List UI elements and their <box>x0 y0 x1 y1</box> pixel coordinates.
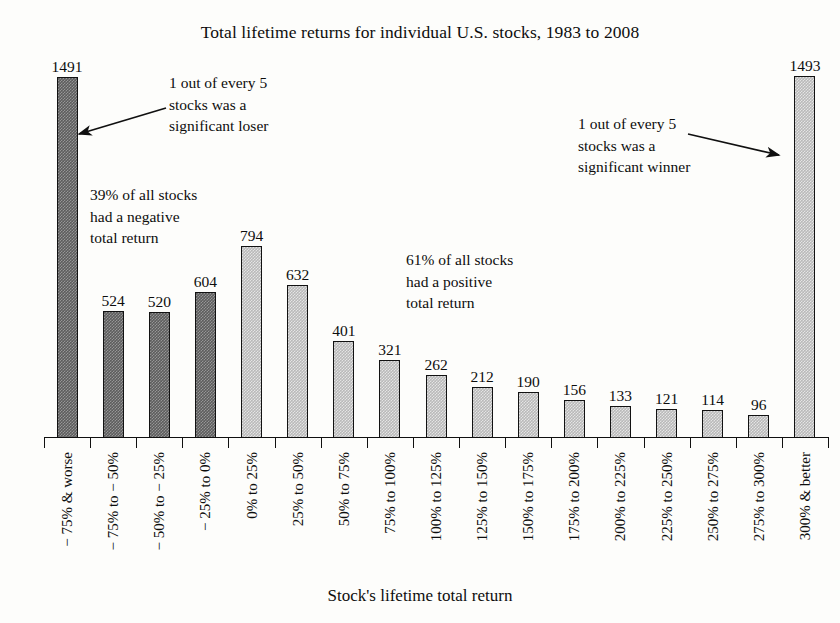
x-tick <box>321 437 322 448</box>
x-tick-label: 0% to 25% <box>245 452 260 582</box>
x-tick-label: − 50% to − 25% <box>152 452 167 582</box>
x-tick <box>136 437 137 448</box>
x-tick <box>459 437 460 448</box>
x-tick <box>367 437 368 448</box>
x-tick <box>597 437 598 448</box>
x-tick-label: 50% to 75% <box>337 452 352 582</box>
x-tick <box>690 437 691 448</box>
x-tick <box>275 437 276 448</box>
x-tick-label: 300% & better <box>798 452 813 582</box>
x-tick <box>782 437 783 448</box>
x-tick-label: 175% to 200% <box>567 452 582 582</box>
x-tick-label: − 25% to 0% <box>198 452 213 582</box>
x-tick <box>505 437 506 448</box>
x-tick <box>228 437 229 448</box>
x-tick-label: 75% to 100% <box>383 452 398 582</box>
x-tick-label: 100% to 125% <box>429 452 444 582</box>
x-tick-label: − 75% to − 50% <box>106 452 121 582</box>
x-tick-label: 250% to 275% <box>706 452 721 582</box>
x-tick <box>413 437 414 448</box>
x-tick <box>182 437 183 448</box>
x-tick <box>90 437 91 448</box>
x-tick-label: 200% to 225% <box>613 452 628 582</box>
x-tick-label: 225% to 250% <box>660 452 675 582</box>
arrow-to-winner-bar <box>688 134 779 155</box>
x-tick-label: − 75% & worse <box>60 452 75 582</box>
x-tick <box>44 437 45 448</box>
x-tick <box>828 437 829 448</box>
chart-page: Total lifetime returns for individual U.… <box>0 0 840 623</box>
x-tick-label: 275% to 300% <box>752 452 767 582</box>
x-tick-label: 25% to 50% <box>291 452 306 582</box>
x-tick <box>736 437 737 448</box>
x-tick <box>644 437 645 448</box>
x-tick <box>551 437 552 448</box>
arrow-to-loser-bar <box>79 108 166 134</box>
x-tick-label: 150% to 175% <box>521 452 536 582</box>
x-tick-label: 125% to 150% <box>475 452 490 582</box>
